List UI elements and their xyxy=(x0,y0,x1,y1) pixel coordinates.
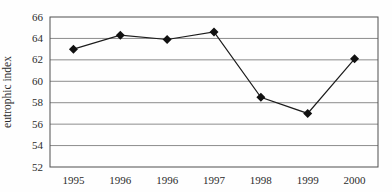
x-tick-label: 1996 xyxy=(109,174,132,186)
y-axis-title: eutrophic index xyxy=(1,56,14,128)
y-tick-label: 60 xyxy=(32,75,44,87)
y-tick-label: 62 xyxy=(32,53,43,65)
x-tick-label: 1997 xyxy=(203,174,226,186)
x-tick-label: 1996 xyxy=(156,174,179,186)
x-tick-label: 1998 xyxy=(250,174,273,186)
plot-svg: 5254565860626466 19951996199619971998199… xyxy=(0,0,392,192)
y-tick-label: 66 xyxy=(32,11,44,23)
series-line xyxy=(73,32,354,113)
y-tick-label: 56 xyxy=(32,118,44,130)
data-series xyxy=(69,28,359,118)
y-tick-label: 58 xyxy=(32,96,44,108)
y-tick-label: 64 xyxy=(32,32,44,44)
x-tick-label: 1995 xyxy=(62,174,85,186)
data-point-marker xyxy=(210,28,219,37)
y-tick-label: 54 xyxy=(32,139,44,151)
x-tick-label: 1999 xyxy=(297,174,320,186)
x-tick-labels: 1995199619961997199819992000 xyxy=(62,174,366,186)
plot-border xyxy=(50,17,378,167)
x-tick-label: 2000 xyxy=(344,174,367,186)
eutrophic-index-chart: 5254565860626466 19951996199619971998199… xyxy=(0,0,392,192)
y-tick-labels: 5254565860626466 xyxy=(32,11,44,173)
data-point-marker xyxy=(256,93,265,102)
data-point-marker xyxy=(163,35,172,44)
gridlines xyxy=(50,38,378,145)
data-point-marker xyxy=(69,45,78,54)
y-tick-label: 52 xyxy=(32,161,43,173)
